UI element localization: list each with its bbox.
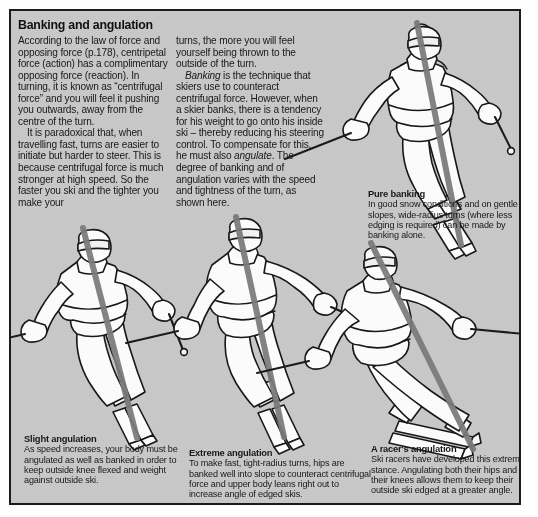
skier-slight-angulation-figure (33, 254, 213, 449)
page-title: Banking and angulation (18, 18, 153, 32)
caption-pure-banking: Pure banking In good snow conditions and… (368, 189, 520, 240)
caption-title: Pure banking (368, 189, 520, 199)
caption-extreme-angulation: Extreme angulation To make fast, tight-r… (189, 448, 371, 499)
page-canvas: Banking and angulation According to the … (0, 0, 538, 517)
caption-racers-angulation: A racer's angulation Ski racers have dev… (371, 444, 521, 495)
caption-title: Slight angulation (24, 434, 184, 444)
paragraph: Banking is the technique that skiers use… (176, 70, 324, 209)
paragraph: turns, the more you will feel yourself b… (176, 35, 324, 70)
paragraph: According to the law of force and opposi… (18, 35, 170, 127)
skier-extreme-angulation-figure (196, 247, 386, 447)
skier-racers-angulation-figure (349, 263, 521, 463)
body-text-right-column: turns, the more you will feel yourself b… (176, 35, 324, 208)
caption-title: Extreme angulation (189, 448, 371, 458)
paragraph: It is paradoxical that, when travelling … (18, 127, 170, 208)
caption-body: In good snow conditions and on gentle sl… (368, 199, 520, 240)
caption-body: As speed increases, your body must be an… (24, 444, 184, 485)
caption-body: Ski racers have developed this extreme s… (371, 454, 521, 495)
caption-title: A racer's angulation (371, 444, 521, 454)
illustration-panel: Banking and angulation According to the … (9, 9, 521, 505)
caption-slight-angulation: Slight angulation As speed increases, yo… (24, 434, 184, 485)
caption-body: To make fast, tight-radius turns, hips a… (189, 458, 371, 499)
body-text-left-column: According to the law of force and opposi… (18, 35, 170, 208)
